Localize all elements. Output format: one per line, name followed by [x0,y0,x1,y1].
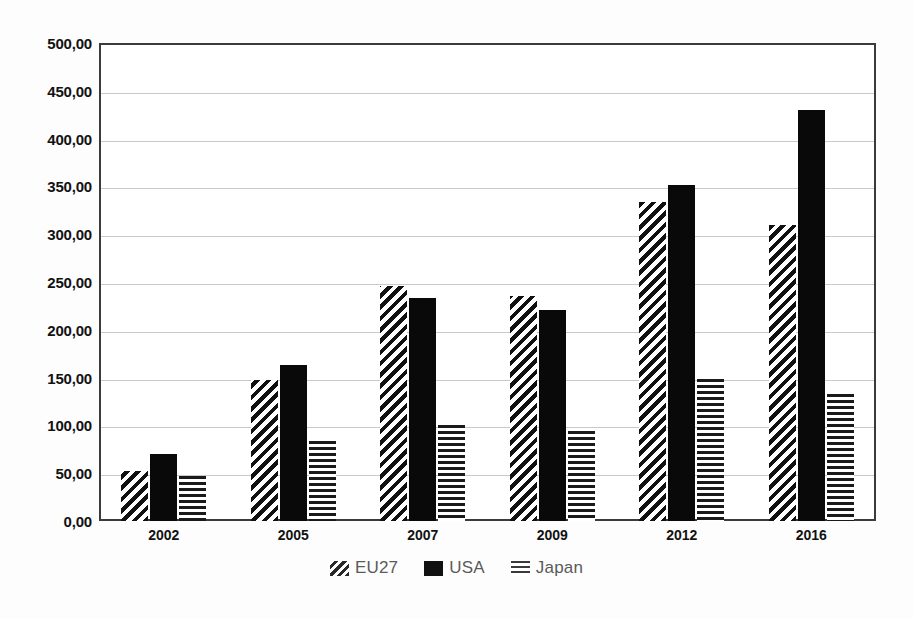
x-tick-label: 2005 [229,527,359,543]
y-tick-label: 50,00 [55,465,92,482]
plot-area [99,43,876,521]
legend-item-usa: USA [424,558,485,578]
y-axis: 0,0050,00100,00150,00200,00250,00300,003… [0,43,92,521]
gridline [101,284,874,285]
bar-chart: 0,0050,00100,00150,00200,00250,00300,003… [0,0,913,619]
x-tick-label: 2009 [488,527,618,543]
gridline [101,93,874,94]
y-tick-label: 150,00 [47,369,92,386]
y-tick-label: 250,00 [47,274,92,291]
gridline [101,141,874,142]
legend-label: EU27 [355,558,398,578]
legend-label: USA [449,558,485,578]
gridline [101,236,874,237]
y-tick-label: 400,00 [47,130,92,147]
y-tick-label: 0,00 [64,513,92,530]
y-tick-label: 450,00 [47,82,92,99]
x-tick-label: 2016 [747,527,877,543]
legend-item-eu27: EU27 [330,558,398,578]
y-tick-label: 300,00 [47,226,92,243]
legend-label: Japan [536,558,583,578]
gridline [101,188,874,189]
x-axis: 200220052007200920122016 [99,527,876,553]
x-tick-label: 2007 [358,527,488,543]
y-tick-label: 500,00 [47,35,92,52]
gridline [101,475,874,476]
gridline [101,427,874,428]
chart-legend: EU27USAJapan [0,558,913,578]
solid-black-swatch-icon [424,561,443,576]
legend-item-japan: Japan [511,558,583,578]
gridline [101,332,874,333]
horizontal-lines-swatch-icon [511,561,530,576]
y-tick-label: 100,00 [47,417,92,434]
x-tick-label: 2002 [99,527,229,543]
gridline [101,380,874,381]
y-tick-label: 200,00 [47,321,92,338]
x-tick-label: 2012 [617,527,747,543]
y-tick-label: 350,00 [47,178,92,195]
diagonal-hatch-swatch-icon [330,561,349,576]
